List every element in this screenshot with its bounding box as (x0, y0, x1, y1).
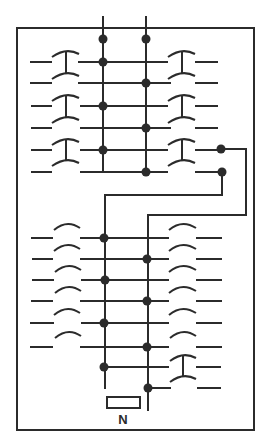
closed-contact-icon (170, 355, 196, 382)
bus-dot (99, 35, 108, 44)
closed-contact-icon (168, 51, 195, 79)
bottom-section (31, 224, 221, 393)
bus-dot (142, 35, 151, 44)
open-contact-icon (54, 309, 80, 315)
open-contact-icon (169, 309, 196, 315)
closed-contact-icon (52, 139, 79, 166)
neutral-label: N (118, 412, 127, 427)
open-contact-icon (55, 266, 81, 272)
panel-frame (17, 28, 254, 430)
open-contact-icon (169, 266, 196, 272)
open-contact-icon (55, 332, 81, 338)
top-section (31, 51, 227, 176)
closed-contact-icon (52, 95, 79, 123)
closed-contact-icon (168, 95, 195, 123)
closed-contact-icon (52, 51, 79, 79)
open-contact-icon (55, 287, 81, 293)
schematic-diagram: N (0, 0, 268, 445)
open-contact-icon (54, 224, 80, 230)
open-contact-icon (169, 245, 196, 251)
neutral-terminal (107, 397, 140, 408)
open-contact-icon (169, 224, 196, 230)
open-contact-icon (54, 245, 80, 251)
open-contact-icon (170, 332, 196, 338)
closed-contact-icon (168, 139, 195, 166)
open-contact-icon (169, 287, 196, 293)
